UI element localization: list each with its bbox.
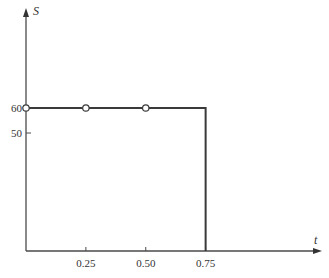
axes	[23, 8, 322, 254]
series-line	[26, 108, 206, 251]
open-circle-marker	[143, 105, 149, 111]
open-circle-marker	[83, 105, 89, 111]
y-axis-arrow-icon	[23, 8, 29, 17]
x-ticks: 0.250.500.75	[76, 247, 216, 269]
x-axis-arrow-icon	[313, 248, 322, 254]
y-tick-label: 60	[11, 102, 23, 114]
y-axis-label: S	[33, 4, 39, 18]
step-function-chart: S t 0.250.500.75 5060	[0, 0, 329, 278]
series-layer	[23, 105, 206, 251]
x-tick-label: 0.50	[136, 257, 156, 269]
y-tick-label: 50	[11, 127, 23, 139]
open-circle-marker	[23, 105, 29, 111]
x-tick-label: 0.25	[76, 257, 96, 269]
x-tick-label: 0.75	[196, 257, 216, 269]
x-axis-label: t	[314, 233, 318, 247]
